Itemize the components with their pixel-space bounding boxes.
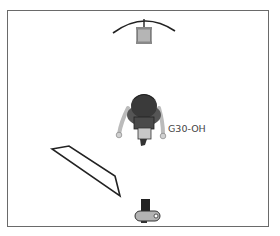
reflector-panel-icon xyxy=(52,146,120,196)
camera-icon xyxy=(135,199,160,223)
lighting-diagram: G30-OH xyxy=(0,0,280,236)
subject-label: G30-OH xyxy=(168,123,206,134)
top-light-icon xyxy=(113,19,175,44)
subject-figure-icon xyxy=(116,94,166,146)
